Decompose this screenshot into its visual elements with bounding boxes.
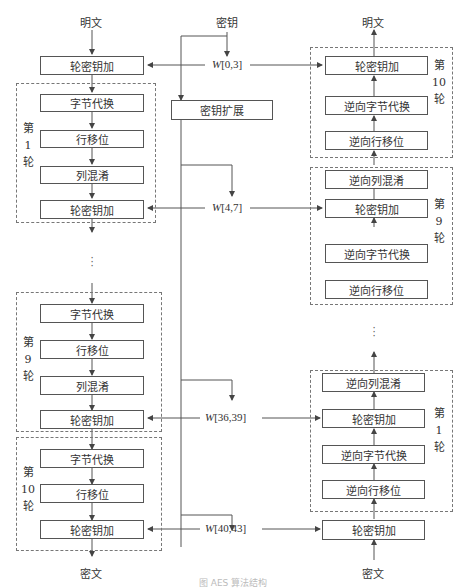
enc-r10-add-round-key: 轮密钥加 [40,520,144,539]
round-key-w40-43: W[40,43] [205,522,246,534]
enc-r10-shift-rows: 行移位 [40,484,144,503]
round-label-number: 9 [19,351,37,368]
round-key-prefix: W [212,58,221,70]
round-key-range: [40,43] [214,522,246,534]
enc-r1-mix-columns: 列混淆 [40,166,144,184]
enc-round-10-label: 第 10 轮 [19,464,37,515]
enc-r9-shift-rows: 行移位 [40,340,144,359]
enc-r9-sub-bytes: 字节代换 [40,304,144,323]
figure-caption: 图 AES 算法结构 [0,576,466,588]
aes-structure-diagram: 明文 轮密钥加 第 1 轮 字节代换 行移位 列混淆 轮密钥加 ··· 第 9 … [0,0,466,588]
dec-r1-add-round-key: 轮密钥加 [322,409,425,428]
round-key-prefix: W [205,522,214,534]
enc-r9-add-round-key: 轮密钥加 [40,410,144,429]
key-label: 密钥 [216,14,238,30]
round-label-char: 第 [19,120,37,137]
dec-r9-inv-mix-columns: 逆向列混淆 [325,170,428,189]
dec-r1-inv-sub-bytes: 逆向字节代换 [322,445,425,464]
dec-ellipsis: ··· [371,326,377,338]
enc-r10-sub-bytes: 字节代换 [40,449,144,468]
round-label-char: 轮 [19,368,37,385]
round-label-char: 轮 [430,439,448,456]
round-label-char: 轮 [19,154,37,171]
enc-r1-shift-rows: 行移位 [40,130,144,148]
dec-round-1-label: 第 1 轮 [430,405,448,456]
enc-ellipsis: ··· [89,256,95,268]
round-label-number: 9 [430,213,448,230]
round-key-range: [0,3] [221,58,242,70]
round-label-number: 1 [430,422,448,439]
round-label-char: 第 [430,405,448,422]
round-label-number: 10 [430,74,448,91]
round-label-char: 轮 [19,498,37,515]
dec-initial-add-round-key: 轮密钥加 [322,520,425,540]
enc-r9-mix-columns: 列混淆 [40,376,144,395]
enc-r1-sub-bytes: 字节代换 [40,94,144,112]
round-key-range: [4,7] [221,201,242,213]
dec-round-10-label: 第 10 轮 [430,57,448,108]
enc-round-1-label: 第 1 轮 [19,120,37,171]
dec-round-9-label: 第 9 轮 [430,196,448,247]
round-key-prefix: W [205,411,214,423]
enc-round-9-label: 第 9 轮 [19,334,37,385]
round-key-w36-39: W[36,39] [205,411,246,423]
dec-r9-inv-shift-rows: 逆向行移位 [325,280,428,299]
round-label-number: 10 [19,481,37,498]
dec-r9-inv-sub-bytes: 逆向字节代换 [325,244,428,263]
round-label-number: 1 [19,137,37,154]
round-label-char: 第 [19,334,37,351]
enc-initial-add-round-key: 轮密钥加 [40,56,144,75]
enc-r1-add-round-key: 轮密钥加 [40,200,144,219]
enc-plaintext-label: 明文 [80,14,102,30]
dec-r1-inv-shift-rows: 逆向行移位 [322,480,425,499]
round-label-char: 轮 [430,230,448,247]
round-key-prefix: W [212,201,221,213]
dec-r9-add-round-key: 轮密钥加 [325,199,428,218]
round-label-char: 第 [430,196,448,213]
key-expansion-box: 密钥扩展 [171,100,273,120]
round-key-w0-3: W[0,3] [212,58,242,70]
dec-r10-add-round-key: 轮密钥加 [325,56,428,75]
round-label-char: 第 [430,57,448,74]
round-label-char: 轮 [430,91,448,108]
dec-r10-inv-sub-bytes: 逆向字节代换 [325,96,428,115]
dec-plaintext-label: 明文 [362,14,384,30]
dec-r1-inv-mix-columns: 逆向列混淆 [322,373,425,392]
dec-r10-inv-shift-rows: 逆向行移位 [325,131,428,150]
round-key-w4-7: W[4,7] [212,201,242,213]
round-key-range: [36,39] [214,411,246,423]
round-label-char: 第 [19,464,37,481]
